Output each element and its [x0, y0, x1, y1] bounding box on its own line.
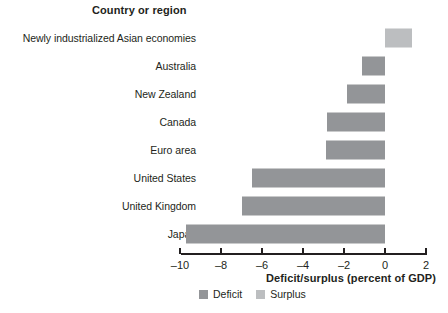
x-axis-line	[181, 253, 427, 255]
bar-deficit	[362, 57, 385, 76]
x-axis-tick	[261, 248, 262, 254]
bar-deficit	[186, 225, 385, 244]
legend-item: Deficit	[199, 288, 242, 300]
x-axis-tick	[179, 248, 180, 254]
x-axis-tick	[425, 248, 426, 254]
chart-row: Japan	[0, 220, 448, 248]
chart-row: New Zealand	[0, 80, 448, 108]
legend-item: Surplus	[256, 288, 306, 300]
chart-row: United States	[0, 164, 448, 192]
x-axis-tick	[343, 248, 344, 254]
bar-surplus	[385, 29, 412, 48]
x-axis-title: Deficit/surplus (percent of GDP)	[266, 272, 436, 284]
chart-row: Australia	[0, 52, 448, 80]
chart-row: Canada	[0, 108, 448, 136]
chart-legend: DeficitSurplus	[199, 288, 306, 300]
legend-label: Surplus	[270, 288, 306, 300]
category-label: Euro area	[150, 144, 196, 156]
x-axis-tick-label: 0	[382, 259, 388, 271]
bar-deficit	[242, 197, 386, 216]
x-axis-tick	[302, 248, 303, 254]
legend-swatch-icon	[199, 290, 208, 299]
bar-deficit	[252, 169, 385, 188]
plot-area: Newly industrialized Asian economiesAust…	[0, 24, 448, 248]
x-axis-tick-label: –10	[171, 259, 189, 271]
bar-deficit	[326, 141, 385, 160]
category-label: United Kingdom	[122, 200, 196, 212]
chart-row: Newly industrialized Asian economies	[0, 24, 448, 52]
x-axis-tick-label: –6	[256, 259, 268, 271]
x-axis-tick-label: –2	[338, 259, 350, 271]
x-axis-tick-label: –8	[215, 259, 227, 271]
chart-row: Euro area	[0, 136, 448, 164]
column-header-country-or-region: Country or region	[92, 4, 187, 16]
x-axis-tick	[384, 248, 385, 254]
bar-deficit	[347, 85, 385, 104]
x-axis-tick-label: –4	[297, 259, 309, 271]
legend-swatch-icon	[256, 290, 265, 299]
x-axis-tick-label: 2	[423, 259, 429, 271]
category-label: United States	[134, 172, 196, 184]
category-label: Canada	[160, 116, 196, 128]
x-axis-tick	[220, 248, 221, 254]
category-label: Newly industrialized Asian economies	[23, 32, 196, 44]
category-label: New Zealand	[135, 88, 196, 100]
legend-label: Deficit	[213, 288, 242, 300]
chart-figure: Country or region Newly industrialized A…	[0, 0, 448, 313]
bar-deficit	[327, 113, 385, 132]
chart-row: United Kingdom	[0, 192, 448, 220]
category-label: Australia	[156, 60, 196, 72]
